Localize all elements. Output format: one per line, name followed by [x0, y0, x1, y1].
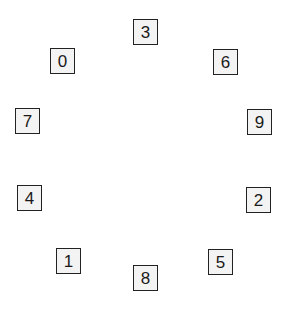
digit-box-1: 1 — [56, 248, 81, 274]
digit-box-9: 9 — [247, 109, 272, 135]
digit-box-4: 4 — [17, 185, 42, 211]
digit-label: 5 — [216, 254, 225, 271]
digit-label: 8 — [141, 270, 150, 287]
digit-label: 0 — [58, 53, 67, 70]
digit-box-0: 0 — [50, 48, 75, 74]
digit-box-7: 7 — [15, 108, 40, 134]
digit-label: 2 — [254, 192, 263, 209]
digit-box-5: 5 — [208, 249, 233, 275]
digit-label: 3 — [141, 24, 150, 41]
digit-label: 7 — [23, 113, 32, 130]
digit-box-8: 8 — [133, 265, 158, 291]
digit-label: 1 — [64, 253, 73, 270]
digit-circle-diagram: 3 0 6 7 9 4 2 1 5 8 — [0, 0, 281, 314]
digit-label: 6 — [221, 54, 230, 71]
digit-box-3: 3 — [133, 19, 158, 45]
digit-box-6: 6 — [213, 49, 238, 75]
digit-label: 4 — [25, 190, 34, 207]
digit-label: 9 — [255, 114, 264, 131]
digit-box-2: 2 — [246, 187, 271, 213]
